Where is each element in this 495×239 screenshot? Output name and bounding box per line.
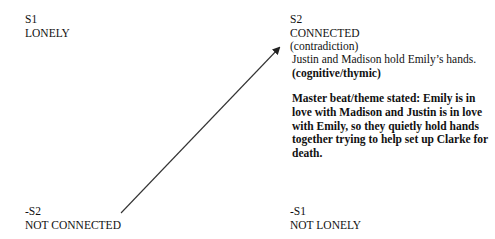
s2-label: CONNECTED [290, 27, 360, 41]
s1-label: LONELY [25, 27, 70, 41]
master-beat: Master beat/theme stated: Emily is in lo… [292, 92, 492, 161]
s1-code: S1 [25, 13, 70, 27]
corner-s1: S1 LONELY [25, 13, 70, 40]
arrow-icon [121, 48, 279, 213]
s2-tag-text: (cognitive/thymic) [292, 67, 381, 81]
s2-description: Justin and Madison hold Emily’s hands. [292, 53, 476, 67]
neg-s2-code: -S2 [25, 205, 121, 219]
corner-neg-s2: -S2 NOT CONNECTED [25, 205, 121, 232]
s2-relation: (contradiction) [290, 40, 360, 54]
neg-s2-label: NOT CONNECTED [25, 219, 121, 233]
s2-description-text: Justin and Madison hold Emily’s hands. [292, 53, 476, 67]
neg-s1-label: NOT LONELY [290, 219, 361, 233]
s2-code: S2 [290, 13, 360, 27]
corner-s2: S2 CONNECTED (contradiction) [290, 13, 360, 54]
corner-neg-s1: -S1 NOT LONELY [290, 205, 361, 232]
neg-s1-code: -S1 [290, 205, 361, 219]
s2-tag: (cognitive/thymic) [292, 67, 381, 81]
